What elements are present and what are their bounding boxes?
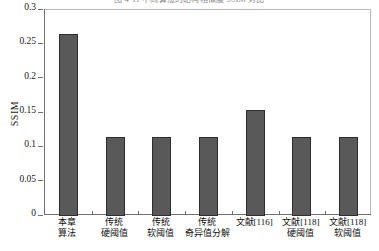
x-label-line2: 算法 [44,228,91,239]
x-tick-label: 文献[118]软阈值 [324,217,371,239]
x-tick-mark [92,211,93,214]
plot-area [44,9,371,215]
y-tick-mark [38,180,43,181]
bar [152,137,171,216]
y-tick-label: 0.3 [24,2,36,12]
x-label-line1: 传统 [105,217,123,227]
x-label-line2: 硬阈值 [278,228,325,239]
y-tick-mark [38,9,43,10]
chart-title-clipped: 图 4-11 不同算法的结构相似度 SSIM 对比 [0,0,379,6]
x-label-line2: 硬阈值 [91,228,138,239]
bar [59,34,78,216]
y-axis-label: SSIM [9,84,20,144]
x-label-line1: 文献[118] [282,217,319,227]
y-tick-label: 0.15 [19,105,36,115]
y-tick-mark [38,215,43,216]
y-tick-label: 0.25 [19,36,36,46]
x-label-line1: 文献[116] [236,217,273,227]
x-label-line2: 奇异值分解 [184,228,231,239]
x-tick-label: 文献[118]硬阈值 [278,217,325,239]
x-tick-mark [279,211,280,214]
x-tick-mark [185,211,186,214]
x-tick-mark [232,211,233,214]
x-tick-label: 传统硬阈值 [91,217,138,239]
y-tick-label: 0 [31,208,36,218]
x-label-line1: 传统 [198,217,216,227]
x-tick-label: 传统奇异值分解 [184,217,231,239]
x-label-line2: 软阈值 [324,228,371,239]
y-tick-label: 0.1 [24,139,36,149]
chart-root: 图 4-11 不同算法的结构相似度 SSIM 对比 SSIM 00.050.10… [0,0,379,251]
x-tick-label: 本章算法 [44,217,91,239]
y-tick-label: 0.2 [24,71,36,81]
y-tick-mark [38,77,43,78]
bar [246,110,265,216]
bar [106,137,125,216]
bar [339,137,358,216]
x-label-line1: 本章 [58,217,76,227]
x-tick-label: 传统软阈值 [137,217,184,239]
y-tick-mark [38,43,43,44]
bar [292,137,311,216]
y-axis-line [44,9,45,215]
x-tick-mark [138,211,139,214]
x-label-line1: 传统 [152,217,170,227]
y-tick-label: 0.05 [19,174,36,184]
bar [199,137,218,216]
x-tick-mark [325,211,326,214]
chart-title: 图 4-11 不同算法的结构相似度 SSIM 对比 [0,0,379,4]
x-label-line2: 软阈值 [137,228,184,239]
x-label-line1: 文献[118] [329,217,366,227]
x-tick-label: 文献[116] [231,217,278,228]
y-tick-mark [38,146,43,147]
y-tick-mark [38,112,43,113]
